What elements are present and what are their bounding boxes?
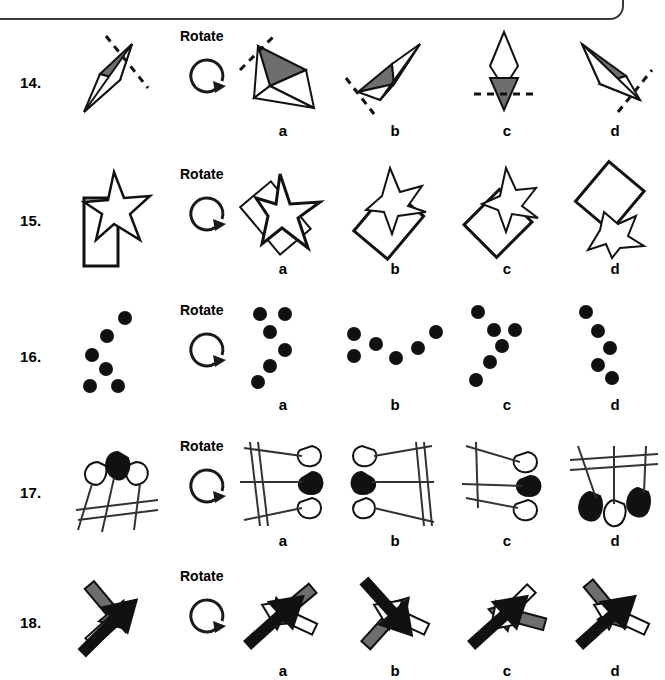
question-17-stem-figure (62, 438, 172, 538)
rotate-label: Rotate (180, 166, 224, 182)
question-number-18: 18. (20, 614, 41, 631)
question-18-option-d[interactable]: d (560, 566, 665, 680)
question-14-option-d[interactable]: d (560, 26, 665, 154)
option-d-figure (560, 26, 665, 122)
question-17-option-b[interactable]: b (340, 436, 450, 564)
option-d-figure (560, 164, 665, 260)
rotate-clockwise-arrow-icon (182, 186, 234, 234)
rotate-label: Rotate (180, 302, 224, 318)
option-c-label: c (452, 396, 562, 413)
option-b-label: b (340, 396, 450, 413)
option-a-figure (228, 436, 338, 532)
question-row-16: 16. Rotate (0, 296, 665, 431)
option-a-label: a (228, 662, 338, 679)
question-14-option-a[interactable]: a (228, 26, 338, 154)
option-b-figure (340, 436, 450, 532)
question-row-15: 15. Rotate (0, 160, 665, 295)
option-b-label: b (340, 122, 450, 139)
question-18-option-b[interactable]: b (340, 566, 450, 680)
question-17-option-c[interactable]: c (452, 436, 562, 564)
question-18-stem-figure (62, 568, 172, 668)
question-14-option-b[interactable]: b (340, 26, 450, 154)
question-15-option-a[interactable]: a (228, 164, 338, 292)
option-c-figure (452, 164, 562, 260)
question-number-14: 14. (20, 74, 41, 91)
option-c-figure (452, 26, 562, 122)
question-row-14: 14. Rotate (0, 22, 665, 157)
option-d-label: d (560, 662, 665, 679)
rotate-label: Rotate (180, 438, 224, 454)
option-b-figure (340, 300, 450, 396)
question-14-stem-figure (62, 28, 172, 128)
question-16-option-b[interactable]: b (340, 300, 450, 428)
question-18-option-a[interactable]: a (228, 566, 338, 680)
option-a-figure (228, 300, 338, 396)
option-b-figure (340, 26, 450, 122)
option-c-label: c (452, 260, 562, 277)
rotate-clockwise-arrow-icon (182, 48, 234, 96)
question-17-option-a[interactable]: a (228, 436, 338, 564)
option-c-label: c (452, 532, 562, 549)
question-15-option-d[interactable]: d (560, 164, 665, 292)
question-14-option-c[interactable]: c (452, 26, 562, 154)
option-a-label: a (228, 122, 338, 139)
rotate-clockwise-arrow-icon (182, 458, 234, 506)
option-a-figure (228, 26, 338, 122)
option-d-label: d (560, 532, 665, 549)
rotate-label: Rotate (180, 28, 224, 44)
question-17-option-d[interactable]: d (560, 436, 665, 564)
option-d-label: d (560, 122, 665, 139)
question-16-option-c[interactable]: c (452, 300, 562, 428)
question-row-17: 17. Rotate (0, 432, 665, 567)
question-row-18: 18. Rotate (0, 562, 665, 680)
option-a-figure (228, 164, 338, 260)
rotate-clockwise-arrow-icon (182, 588, 234, 636)
question-15-option-b[interactable]: b (340, 164, 450, 292)
question-16-option-d[interactable]: d (560, 300, 665, 428)
option-a-figure (228, 566, 338, 662)
question-number-16: 16. (20, 348, 41, 365)
question-15-option-c[interactable]: c (452, 164, 562, 292)
option-c-figure (452, 300, 562, 396)
option-b-label: b (340, 532, 450, 549)
option-d-figure (560, 300, 665, 396)
option-d-figure (560, 566, 665, 662)
option-b-label: b (340, 260, 450, 277)
option-c-label: c (452, 122, 562, 139)
option-b-figure (340, 566, 450, 662)
option-c-figure (452, 436, 562, 532)
option-a-label: a (228, 396, 338, 413)
question-number-15: 15. (20, 212, 41, 229)
top-border-frame (0, 0, 624, 20)
question-15-stem-figure (62, 166, 172, 266)
option-b-figure (340, 164, 450, 260)
option-a-label: a (228, 260, 338, 277)
question-16-stem-figure (62, 302, 172, 402)
rotate-label: Rotate (180, 568, 224, 584)
option-d-figure (560, 436, 665, 532)
question-18-option-c[interactable]: c (452, 566, 562, 680)
option-c-figure (452, 566, 562, 662)
option-d-label: d (560, 396, 665, 413)
question-16-option-a[interactable]: a (228, 300, 338, 428)
option-c-label: c (452, 662, 562, 679)
option-a-label: a (228, 532, 338, 549)
option-d-label: d (560, 260, 665, 277)
option-b-label: b (340, 662, 450, 679)
question-number-17: 17. (20, 484, 41, 501)
rotate-clockwise-arrow-icon (182, 322, 234, 370)
